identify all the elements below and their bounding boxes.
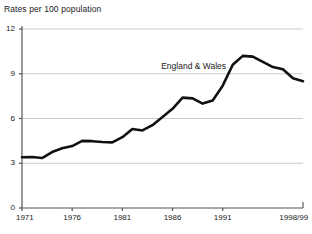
y-tick-label: 0 xyxy=(0,204,15,212)
x-tick-label: 1998/99 xyxy=(279,214,308,222)
plot-area xyxy=(0,0,312,234)
chart-container: Rates per 100 population 129630 19711976… xyxy=(0,0,312,234)
x-tick-label: 1986 xyxy=(164,214,182,222)
y-tick-label: 3 xyxy=(0,159,15,167)
series-line-england-wales xyxy=(22,56,303,158)
data-series-england-wales xyxy=(22,56,303,158)
y-tick-label: 12 xyxy=(0,25,15,33)
series-label-england-wales: England & Wales xyxy=(161,61,226,71)
x-tick-label: 1976 xyxy=(63,214,81,222)
axis-ticks xyxy=(19,29,223,211)
x-tick-label: 1991 xyxy=(214,214,232,222)
x-tick-label: 1981 xyxy=(113,214,131,222)
y-tick-label: 6 xyxy=(0,115,15,123)
y-tick-label: 9 xyxy=(0,70,15,78)
x-tick-label: 1971 xyxy=(16,214,34,222)
gridlines xyxy=(22,29,303,163)
